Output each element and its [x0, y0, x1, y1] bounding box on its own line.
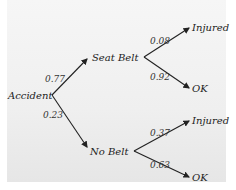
node-nobelt-injured: Injured: [191, 115, 229, 126]
prob-seat-belt: 0.77: [45, 74, 65, 84]
prob-no-belt: 0.23: [43, 110, 63, 120]
node-no-belt: No Belt: [89, 146, 129, 157]
prob-seatbelt-injured: 0.08: [150, 36, 170, 46]
prob-nobelt-ok: 0.63: [150, 160, 170, 170]
node-seat-belt: Seat Belt: [92, 52, 139, 63]
node-seatbelt-injured: Injured: [191, 22, 229, 33]
node-nobelt-ok: OK: [192, 172, 208, 183]
node-seatbelt-ok: OK: [192, 83, 208, 94]
prob-seatbelt-ok: 0.92: [150, 72, 170, 82]
prob-nobelt-injured: 0.37: [150, 128, 170, 138]
node-accident: Accident: [7, 90, 53, 101]
edge-accident-nobelt: [52, 95, 87, 147]
probability-tree: Accident Seat Belt No Belt Injured OK In…: [0, 0, 236, 190]
